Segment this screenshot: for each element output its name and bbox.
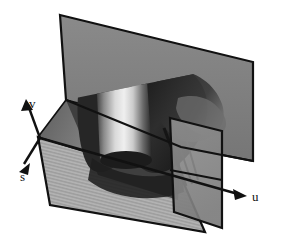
figure-canvas: v s u [0,0,281,246]
axis-label-u: u [252,190,259,203]
right-cutting-plane [170,118,222,228]
scene-graphic [0,0,281,246]
axis-u-arrowhead [233,189,247,200]
axis-label-v: v [29,97,36,110]
axis-label-s: s [20,170,25,183]
